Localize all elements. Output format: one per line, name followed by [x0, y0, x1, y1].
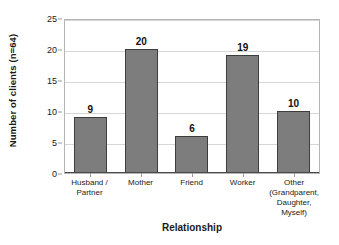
bar[interactable]: 20 — [125, 49, 158, 173]
y-tick-label: 10 — [47, 107, 57, 117]
x-axis-category-labels: Husband /PartnerMotherFriendWorkerOther(… — [64, 178, 320, 218]
bar-value-label: 9 — [88, 104, 94, 115]
y-tick-label: 5 — [52, 138, 57, 148]
x-tick-mark — [243, 173, 244, 177]
bar-value-label: 20 — [136, 36, 147, 47]
bar-slot: 20 — [116, 20, 167, 173]
y-tick-mark — [58, 112, 62, 113]
x-tick-mark — [294, 173, 295, 177]
x-tick-label-line: Myself) — [269, 208, 319, 218]
y-axis-title-text: Number of clients (n=64) — [8, 33, 19, 147]
bar[interactable]: 10 — [277, 111, 310, 173]
x-tick-label: Other(Grandparent,Daughter,Myself) — [268, 178, 320, 218]
x-tick-label: Friend — [166, 178, 217, 218]
x-tick-mark — [90, 173, 91, 177]
y-tick-mark — [58, 81, 62, 82]
bar-value-label: 19 — [237, 42, 248, 53]
bar-slot: 9 — [65, 20, 116, 173]
x-tick-label-line: (Grandparent, — [269, 188, 319, 198]
y-axis-title: Number of clients (n=64) — [0, 0, 26, 180]
x-tick-label-line: Worker — [218, 178, 267, 188]
bar-value-label: 10 — [288, 98, 299, 109]
y-tick-mark — [58, 143, 62, 144]
x-tick-label-line: Other — [269, 178, 319, 188]
x-tick-label-line: Friend — [167, 178, 216, 188]
y-tick-label: 0 — [52, 169, 57, 179]
bar-slot: 10 — [268, 20, 319, 173]
y-tick-label: 20 — [47, 45, 57, 55]
bars-container: 92061910 — [65, 20, 319, 173]
y-tick-label: 25 — [47, 14, 57, 24]
x-tick-label: Husband /Partner — [64, 178, 115, 218]
bar[interactable]: 19 — [226, 55, 259, 173]
y-tick-mark — [58, 174, 62, 175]
bar-value-label: 6 — [189, 123, 195, 134]
x-tick-label-line: Partner — [65, 188, 114, 198]
y-tick-mark — [58, 50, 62, 51]
y-tick-label: 15 — [47, 76, 57, 86]
bar-slot: 19 — [217, 20, 268, 173]
x-tick-label: Mother — [115, 178, 166, 218]
plot-area: 92061910 — [64, 19, 320, 174]
bar[interactable]: 9 — [74, 117, 107, 173]
y-tick-mark — [58, 19, 62, 20]
x-tick-label-line: Husband / — [65, 178, 114, 188]
bar-chart: Number of clients (n=64) 0510152025 9206… — [0, 0, 339, 245]
bar-slot: 6 — [167, 20, 218, 173]
x-tick-mark — [141, 173, 142, 177]
y-axis-ticks: 0510152025 — [26, 19, 62, 174]
bar[interactable]: 6 — [175, 136, 208, 173]
x-tick-label-line: Mother — [116, 178, 165, 188]
x-tick-label: Worker — [217, 178, 268, 218]
x-tick-label-line: Daughter, — [269, 198, 319, 208]
x-axis-title: Relationship — [64, 222, 320, 233]
x-tick-mark — [192, 173, 193, 177]
x-axis-line — [65, 172, 319, 173]
